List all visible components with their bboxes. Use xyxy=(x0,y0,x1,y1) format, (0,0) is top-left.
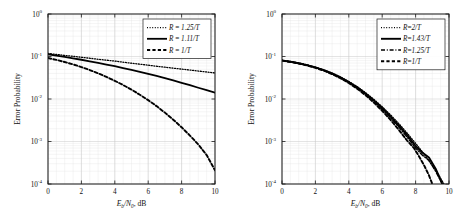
y-axis-label: Error Probability xyxy=(247,73,256,125)
xtick-label: 6 xyxy=(380,188,384,196)
chart-panel-left: 024681010010-110-210-310-4Error Probabil… xyxy=(0,0,234,224)
ytick-label: 10-4 xyxy=(31,179,43,188)
chart-panel-right: 024681010010-110-210-310-4Error Probabil… xyxy=(234,0,468,224)
xtick-label: 8 xyxy=(414,188,418,196)
ytick-label: 100 xyxy=(266,9,276,18)
x-axis-label: Eb/N0, dB xyxy=(350,199,381,209)
xtick-label: 2 xyxy=(80,188,84,196)
legend-right: R=2/TR=1.43/TR=1.25/TR=1/T xyxy=(377,19,445,70)
curve-right-1 xyxy=(282,60,442,184)
ytick-label: 10-3 xyxy=(31,137,43,146)
xtick-label: 0 xyxy=(46,188,50,196)
y-axis-label: Error Probability xyxy=(13,73,22,125)
xtick-label: 10 xyxy=(211,188,219,196)
legend-label-0: R = 1.25/T xyxy=(168,24,201,32)
xtick-label: 0 xyxy=(280,188,284,196)
ytick-label: 10-1 xyxy=(31,52,43,61)
figure-container: 024681010010-110-210-310-4Error Probabil… xyxy=(0,0,468,224)
ytick-label: 10-1 xyxy=(265,52,277,61)
chart-svg-left: 024681010010-110-210-310-4Error Probabil… xyxy=(0,0,234,224)
curve-right-2 xyxy=(282,61,442,185)
ytick-label: 100 xyxy=(32,9,42,18)
xtick-label: 4 xyxy=(347,188,351,196)
xtick-label: 2 xyxy=(314,188,318,196)
xtick-label: 10 xyxy=(445,188,453,196)
ytick-label: 10-2 xyxy=(265,94,277,103)
legend-label-1: R=1.43/T xyxy=(402,35,431,43)
ytick-label: 10-3 xyxy=(265,137,277,146)
legend-label-2: R=1.25/T xyxy=(402,47,431,55)
chart-svg-right: 024681010010-110-210-310-4Error Probabil… xyxy=(234,0,468,224)
x-axis-label: Eb/N0, dB xyxy=(116,199,147,209)
xtick-label: 6 xyxy=(146,188,150,196)
ytick-label: 10-4 xyxy=(265,179,277,188)
legend-label-2: R = 1/T xyxy=(168,47,192,55)
legend-left: R = 1.25/TR = 1.11/TR = 1/T xyxy=(143,19,211,59)
xtick-label: 4 xyxy=(113,188,117,196)
ytick-label: 10-2 xyxy=(31,94,43,103)
legend-label-1: R = 1.11/T xyxy=(168,35,200,43)
legend-label-3: R=1/T xyxy=(402,58,422,66)
xtick-label: 8 xyxy=(180,188,184,196)
legend-label-0: R=2/T xyxy=(402,24,422,32)
